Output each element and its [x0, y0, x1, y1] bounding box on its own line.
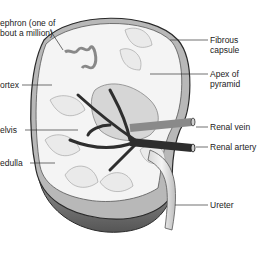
label-fibrous-capsule-line1: Fibrous: [210, 35, 239, 45]
label-apex-of-pyramid: Apex of pyramid: [210, 69, 240, 89]
label-pelvis: elvis: [0, 125, 17, 135]
label-fibrous-capsule: Fibrous capsule: [210, 35, 239, 55]
label-nephron: ephron (one of bout a million): [0, 18, 55, 38]
label-renal-vein: Renal vein: [210, 122, 250, 132]
label-fibrous-capsule-line2: capsule: [210, 45, 239, 55]
label-medulla: edulla: [0, 158, 23, 168]
label-ureter: Ureter: [210, 200, 234, 210]
label-apex-line2: pyramid: [210, 79, 240, 89]
label-nephron-line1: ephron (one of: [0, 18, 55, 28]
label-nephron-line2: bout a million): [0, 28, 55, 38]
label-renal-artery: Renal artery: [210, 142, 256, 152]
label-apex-line1: Apex of: [210, 69, 240, 79]
kidney-diagram: ephron (one of bout a million) ortex elv…: [0, 0, 266, 265]
label-cortex: ortex: [0, 80, 19, 90]
